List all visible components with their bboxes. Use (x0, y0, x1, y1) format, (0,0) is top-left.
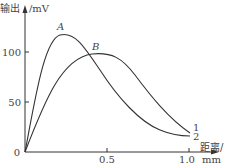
curve-a-label: A (56, 21, 64, 32)
chart: 100 50 0 0.5 1.0 输出 /mV 距离/ mm A B 1 2 (0, 0, 225, 166)
y-axis-title: 输出 (0, 2, 20, 14)
x-tick-label-10: 1.0 (179, 154, 195, 165)
curve-end-label-2: 2 (193, 131, 199, 142)
y-axis-arrow-icon (23, 5, 28, 13)
x-axis-title: 距离/ (200, 141, 224, 153)
curve-b-label: B (91, 41, 99, 52)
x-tick-label-05: 0.5 (99, 154, 115, 165)
y-tick-label-100: 100 (2, 47, 21, 58)
y-tick-label-50: 50 (8, 97, 21, 108)
origin-label: 0 (14, 147, 20, 158)
curve-b (25, 54, 190, 152)
y-axis-unit: /mV (29, 3, 50, 14)
x-axis-unit: mm (202, 154, 221, 165)
